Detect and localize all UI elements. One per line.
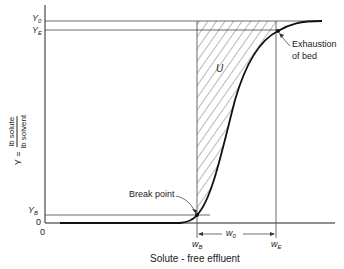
break-point-leader	[176, 196, 195, 212]
exhaustion-label-line2: of bed	[292, 52, 317, 61]
x-axis-title: Solute - free effluent	[150, 254, 240, 264]
exhaustion-arrowhead	[279, 33, 284, 38]
hatched-area-u	[197, 21, 279, 216]
break-point-label: Break point	[129, 190, 175, 199]
area-u-label: U	[216, 64, 223, 74]
y-axis-title-prefix: Y =	[12, 152, 22, 166]
w0-arrowhead-right	[270, 232, 275, 236]
y-axis-title-denominator: lb solvent	[18, 115, 28, 149]
ye-label: YE	[32, 26, 42, 36]
breakthrough-curve	[60, 21, 322, 223]
break-point-marker	[195, 213, 199, 217]
y-axis-title-fraction: lb solute lb solvent	[7, 115, 28, 149]
y0-label: Y0	[32, 14, 41, 24]
exhaustion-label-line1: Exhaustion	[292, 40, 337, 49]
zero-y-label: 0	[36, 218, 41, 227]
we-label: wE	[271, 240, 282, 250]
w0-arrowhead-left	[198, 232, 203, 236]
y-axis-title: Y = lb solute lb solvent	[2, 85, 32, 195]
exhaustion-marker	[276, 29, 280, 33]
yb-label: YB	[28, 206, 38, 216]
zero-x-label: 0	[40, 228, 45, 237]
y-axis-title-numerator: lb solute	[7, 116, 18, 148]
w0-label: w0	[226, 229, 236, 239]
wb-label: wB	[192, 240, 203, 250]
